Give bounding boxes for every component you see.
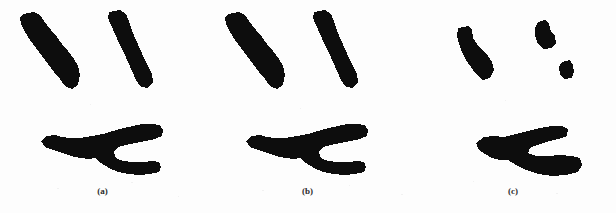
shape-diagonal-bar-right (313, 10, 358, 88)
figure-panel-a: (a) (0, 0, 205, 213)
panel-caption-c: (c) (410, 186, 616, 196)
panel-b-graphic (205, 0, 410, 182)
shape-diagonal-bar-right-fragment-lower (559, 60, 574, 79)
shape-pliers-silhouette (41, 124, 163, 175)
panel-c-graphic (410, 0, 616, 182)
figure-panel-c: (c) (410, 0, 616, 213)
shape-diagonal-bar-left (225, 12, 285, 89)
shape-diagonal-bar-left-fragment (457, 26, 494, 80)
panel-a-graphic (0, 0, 205, 182)
figure-panel-b: (b) (205, 0, 410, 213)
shape-pliers-silhouette (246, 124, 368, 175)
shape-diagonal-bar-right (108, 10, 153, 88)
panel-caption-b: (b) (205, 186, 410, 196)
panel-caption-a: (a) (0, 186, 205, 196)
shape-pliers-silhouette-degraded (476, 126, 582, 176)
shape-diagonal-bar-right-fragment-upper (535, 20, 556, 49)
figure-container: (a) (b) (c) (0, 0, 616, 213)
shape-diagonal-bar-left (20, 12, 80, 89)
